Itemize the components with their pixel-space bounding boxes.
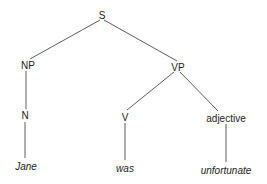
leaf-jane: Jane — [15, 161, 37, 172]
node-v: V — [122, 112, 129, 123]
tree-edges — [0, 0, 267, 184]
edge-vp-v — [127, 72, 174, 110]
node-np: NP — [21, 60, 35, 71]
edge-vp-adjective — [180, 72, 218, 111]
leaf-unfortunate: unfortunate — [201, 165, 252, 176]
leaf-was: was — [116, 163, 134, 174]
node-n: N — [21, 110, 28, 121]
edge-s-vp — [104, 20, 177, 61]
edge-s-np — [30, 20, 100, 59]
node-adjective: adjective — [206, 113, 245, 124]
node-vp: VP — [171, 62, 184, 73]
node-s: S — [99, 10, 106, 21]
syntax-tree-diagram: S NP VP N V adjective Jane was unfortuna… — [0, 0, 267, 184]
